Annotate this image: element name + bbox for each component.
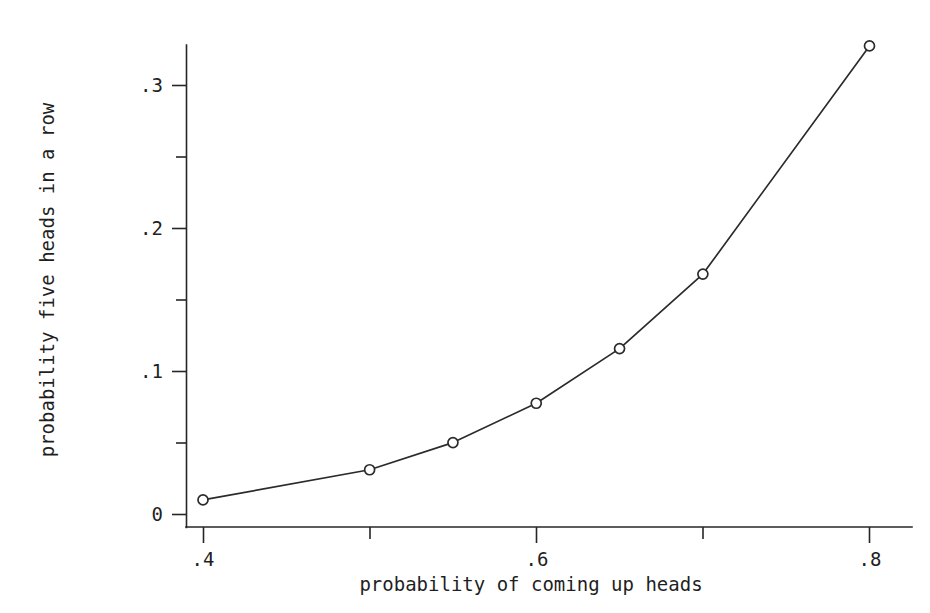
y-axis-title: probability five heads in a row <box>36 102 58 457</box>
data-point-marker <box>448 438 458 448</box>
x-axis-title: probability of coming up heads <box>359 573 702 595</box>
x-tick-label-2: .8 <box>859 548 882 570</box>
y-tick-label-2: .2 <box>140 217 163 239</box>
series-line-probability <box>203 46 870 500</box>
y-tick-label-3: .3 <box>140 74 163 96</box>
chart-container: 0 .1 .2 .3 .4 .6 .8 probability of comin… <box>0 0 930 613</box>
data-point-marker <box>615 344 625 354</box>
y-tick-label-0: 0 <box>152 503 163 525</box>
x-tick-label-1: .6 <box>526 548 549 570</box>
data-point-marker <box>865 41 875 51</box>
x-tick-label-0: .4 <box>192 548 215 570</box>
data-point-marker <box>698 269 708 279</box>
data-point-marker <box>198 495 208 505</box>
data-point-marker <box>365 465 375 475</box>
line-chart: 0 .1 .2 .3 .4 .6 .8 probability of comin… <box>0 0 930 613</box>
y-tick-label-1: .1 <box>140 360 163 382</box>
data-point-marker <box>531 398 541 408</box>
series-markers <box>198 41 875 505</box>
